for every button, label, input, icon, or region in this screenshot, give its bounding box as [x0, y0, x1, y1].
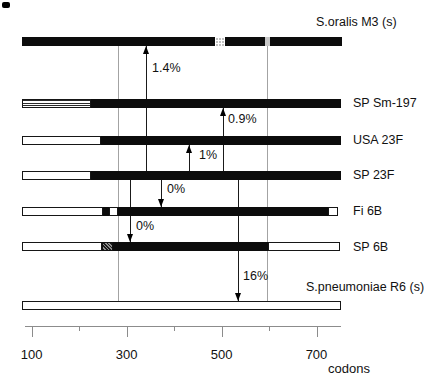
sp-6b-segment-white [22, 242, 102, 251]
sp-23f-segment-white [22, 171, 91, 180]
fi-6b-segment-white [22, 207, 103, 216]
sp-6b-label: SP 6B [353, 240, 388, 254]
axis-tick-label-100: 100 [17, 348, 47, 362]
fi-6b-segment-black [118, 207, 328, 216]
fi-6b-segment-white [328, 207, 338, 216]
axis-major-tick-500 [222, 326, 223, 337]
arrowhead-up-icon [186, 145, 192, 153]
axis-tick-label-500: 500 [207, 348, 237, 362]
divergence-label-1: 1.4% [152, 61, 181, 75]
divergence-label-4: 0% [167, 182, 185, 196]
s-oralis-m3-segment-black [22, 37, 215, 46]
axis-tick-label-300: 300 [112, 348, 142, 362]
divergence-arrow-line-1 [146, 46, 147, 171]
sp-23f-label: SP 23F [353, 168, 394, 182]
axis-minor-tick-2 [174, 326, 175, 331]
arrowhead-up-icon [143, 46, 149, 54]
scan-artifact [2, 2, 10, 8]
fi-6b-segment-white [109, 207, 119, 216]
arrowhead-up-icon [220, 108, 226, 116]
divergence-label-5: 0% [136, 219, 154, 233]
s-oralis-m3-segment-black [270, 37, 342, 46]
axis-unit-label: codons [328, 362, 370, 376]
divergence-arrow-line-6 [238, 180, 239, 301]
fi-6b-label: Fi 6B [353, 204, 382, 218]
sp-6b-segment-black [113, 242, 268, 251]
gene-mosaic-figure: codons 1.4%0.9%1%0%0%16%S.oralis M3 (s)S… [0, 0, 440, 389]
s-pneumoniae-r6-label: S.pneumoniae R6 (s) [306, 280, 424, 294]
sp-sm-197-segment-hstripe [22, 99, 91, 108]
usa-23f-segment-white [22, 136, 101, 145]
axis-major-tick-300 [127, 326, 128, 337]
axis-major-tick-100 [32, 326, 33, 337]
arrowhead-down-icon [127, 234, 133, 242]
axis-minor-tick-3 [269, 326, 270, 331]
s-oralis-m3-label: S.oralis M3 (s) [316, 15, 397, 29]
axis-minor-tick-1 [79, 326, 80, 331]
sp-23f-segment-black [91, 171, 341, 180]
axis-tick-label-700: 700 [302, 348, 332, 362]
sp-6b-segment-darkhatch [102, 242, 113, 251]
s-pneumoniae-r6-segment-white [22, 301, 341, 310]
s-oralis-m3-segment-checker [215, 37, 225, 46]
usa-23f-segment-black [101, 136, 341, 145]
divergence-label-2: 0.9% [228, 112, 257, 126]
sp-sm-197-label: SP Sm-197 [353, 96, 417, 110]
x-axis-line [25, 326, 341, 327]
usa-23f-label: USA 23F [353, 133, 403, 147]
arrowhead-down-icon [235, 293, 241, 301]
divergence-label-3: 1% [199, 148, 217, 162]
sp-6b-segment-white [268, 242, 340, 251]
arrowhead-down-icon [158, 199, 164, 207]
s-oralis-m3-segment-black [225, 37, 265, 46]
divergence-label-6: 16% [243, 269, 268, 283]
plot-area: codons 1.4%0.9%1%0%0%16%S.oralis M3 (s)S… [0, 0, 440, 389]
sp-sm-197-segment-black [91, 99, 341, 108]
axis-major-tick-700 [317, 326, 318, 337]
